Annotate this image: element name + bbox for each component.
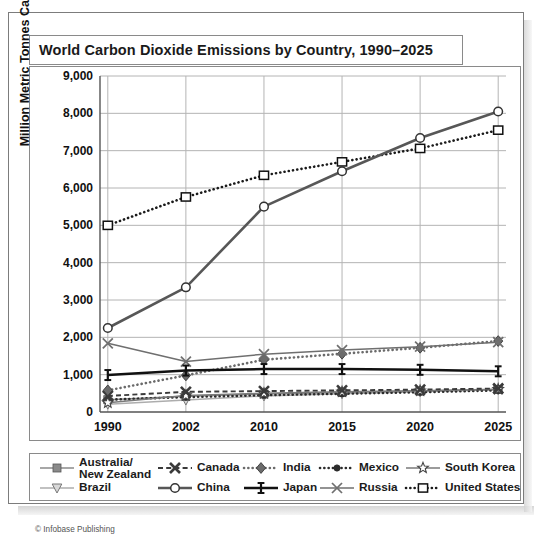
series-line <box>108 341 498 390</box>
copyright-notice: © Infobase Publishing <box>35 525 115 534</box>
data-point-marker <box>104 324 113 333</box>
x-axis-tick-label: 1990 <box>94 420 122 434</box>
legend-grid: Australia/ New ZealandCanadaIndiaMexicoS… <box>38 458 516 498</box>
data-point-marker <box>337 158 346 166</box>
x-axis-tick-label: 2025 <box>484 420 512 434</box>
legend-item-label: Mexico <box>359 462 399 474</box>
data-point-marker <box>256 463 265 474</box>
page-title: World Carbon Dioxide Emissions by Countr… <box>39 42 433 58</box>
legend-marker-star-open-icon <box>404 459 442 477</box>
legend-item-label: Australia/ New Zealand <box>79 456 156 480</box>
data-point-marker <box>416 134 425 143</box>
chart-legend: Australia/ New ZealandCanadaIndiaMexicoS… <box>29 453 521 501</box>
series-line <box>108 130 498 225</box>
data-point-marker <box>338 167 347 176</box>
data-point-marker <box>259 171 268 179</box>
legend-item[interactable]: China <box>156 478 242 498</box>
legend-item[interactable]: South Korea <box>404 458 516 478</box>
legend-marker-x-bold-icon <box>156 459 194 477</box>
data-point-marker <box>182 283 191 292</box>
legend-marker-ibeam-icon <box>242 479 280 497</box>
legend-item[interactable]: Russia <box>318 478 404 498</box>
y-axis-tick-label: 6,000 <box>63 181 93 195</box>
legend-item-label: United States <box>445 482 520 494</box>
data-point-marker <box>418 462 429 472</box>
legend-marker-triangle-down-icon <box>38 479 76 497</box>
legend-marker-circle-open-icon <box>156 479 194 497</box>
y-axis-tick-label: 8,000 <box>63 106 93 120</box>
data-point-marker <box>260 202 269 211</box>
legend-item-label: Canada <box>197 462 240 474</box>
plot-area: Million Metric Tonnes Carbon Dioxide 01,… <box>29 66 521 441</box>
y-axis-tick-label: 5,000 <box>63 218 93 232</box>
y-axis-tick-label: 9,000 <box>63 69 93 83</box>
legend-item[interactable]: Australia/ New Zealand <box>38 458 156 478</box>
legend-item-label: Japan <box>283 482 317 494</box>
legend-item-label: China <box>197 482 230 494</box>
legend-item[interactable]: India <box>242 458 318 478</box>
legend-marker-square-filled-icon <box>38 459 76 477</box>
data-point-marker <box>416 144 425 152</box>
legend-item[interactable]: Japan <box>242 478 318 498</box>
card-shadow-bottom <box>18 506 534 515</box>
y-axis-tick-label: 4,000 <box>63 256 93 270</box>
x-axis-tick-label: 2015 <box>328 420 356 434</box>
x-axis-tick-label: 2002 <box>172 420 200 434</box>
chart-card: World Carbon Dioxide Emissions by Countr… <box>8 12 524 504</box>
chart-title-box: World Carbon Dioxide Emissions by Countr… <box>29 35 463 65</box>
x-axis-tick-label: 2010 <box>250 420 278 434</box>
legend-item[interactable]: Canada <box>156 458 242 478</box>
series-line <box>108 369 498 375</box>
data-point-marker <box>494 126 503 134</box>
legend-marker-x-thin-icon <box>318 479 356 497</box>
chart-page: World Carbon Dioxide Emissions by Countr… <box>0 0 548 545</box>
data-point-marker <box>418 484 427 492</box>
legend-item[interactable]: United States <box>404 478 516 498</box>
line-chart-svg: 01,0002,0003,0004,0005,0006,0007,0008,00… <box>30 67 522 442</box>
x-axis-tick-label: 2020 <box>406 420 434 434</box>
legend-item[interactable]: Mexico <box>318 458 404 478</box>
data-point-marker <box>334 465 340 471</box>
data-point-marker <box>103 221 112 229</box>
legend-item-label: Brazil <box>79 482 111 494</box>
series-line <box>108 342 498 361</box>
legend-item-label: India <box>283 462 311 474</box>
y-axis-tick-label: 3,000 <box>63 293 93 307</box>
chart-canvas: 01,0002,0003,0004,0005,0006,0007,0008,00… <box>30 67 522 442</box>
data-point-marker <box>53 464 61 472</box>
legend-item[interactable]: Brazil <box>38 478 156 498</box>
series-line <box>108 111 498 328</box>
legend-marker-circle-small-icon <box>318 459 356 477</box>
data-point-marker <box>171 484 180 493</box>
y-axis-tick-label: 7,000 <box>63 144 93 158</box>
legend-item-label: South Korea <box>445 462 515 474</box>
card-shadow-right <box>524 20 532 512</box>
y-axis-tick-label: 0 <box>86 405 93 419</box>
data-point-marker <box>181 193 190 201</box>
data-point-marker <box>494 107 503 116</box>
legend-marker-diamond-filled-icon <box>242 459 280 477</box>
legend-marker-square-open-icon <box>404 479 442 497</box>
legend-item-label: Russia <box>359 482 398 494</box>
y-axis-tick-label: 2,000 <box>63 330 93 344</box>
y-axis-tick-label: 1,000 <box>63 368 93 382</box>
